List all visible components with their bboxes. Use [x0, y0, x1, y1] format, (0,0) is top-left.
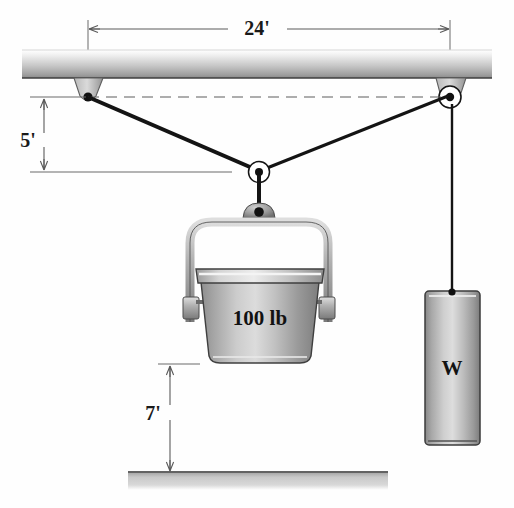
ground-fill — [128, 473, 388, 490]
right-pulley-assembly — [436, 78, 466, 108]
dimension-clearance-7ft: 7' — [145, 364, 200, 471]
center-pulley-assembly — [243, 162, 275, 219]
figure-canvas: 24' 5' — [0, 0, 514, 508]
cable-right-segment — [262, 96, 448, 170]
cable-left-segment — [88, 97, 257, 170]
ceiling-beam — [22, 50, 492, 78]
bucket-weight-label: 100 lb — [233, 306, 287, 330]
dimension-label-5ft: 5' — [20, 129, 36, 151]
counterweight-label: W — [442, 356, 463, 380]
bucket-hanger-pin — [254, 207, 264, 217]
dimension-sag-5ft: 5' — [20, 97, 232, 172]
diagram-svg: 24' 5' — [0, 0, 514, 508]
counterweight-attachment-point — [448, 288, 455, 295]
center-pulley-axle — [255, 168, 263, 176]
bucket-rim — [196, 269, 324, 283]
bucket-assembly: 100 lb — [183, 222, 335, 363]
ground — [128, 472, 388, 490]
counterweight-assembly: W — [425, 288, 480, 445]
cable-assembly — [88, 96, 452, 292]
dimension-label-7ft: 7' — [145, 402, 161, 424]
dimension-label-24ft: 24' — [244, 17, 270, 39]
